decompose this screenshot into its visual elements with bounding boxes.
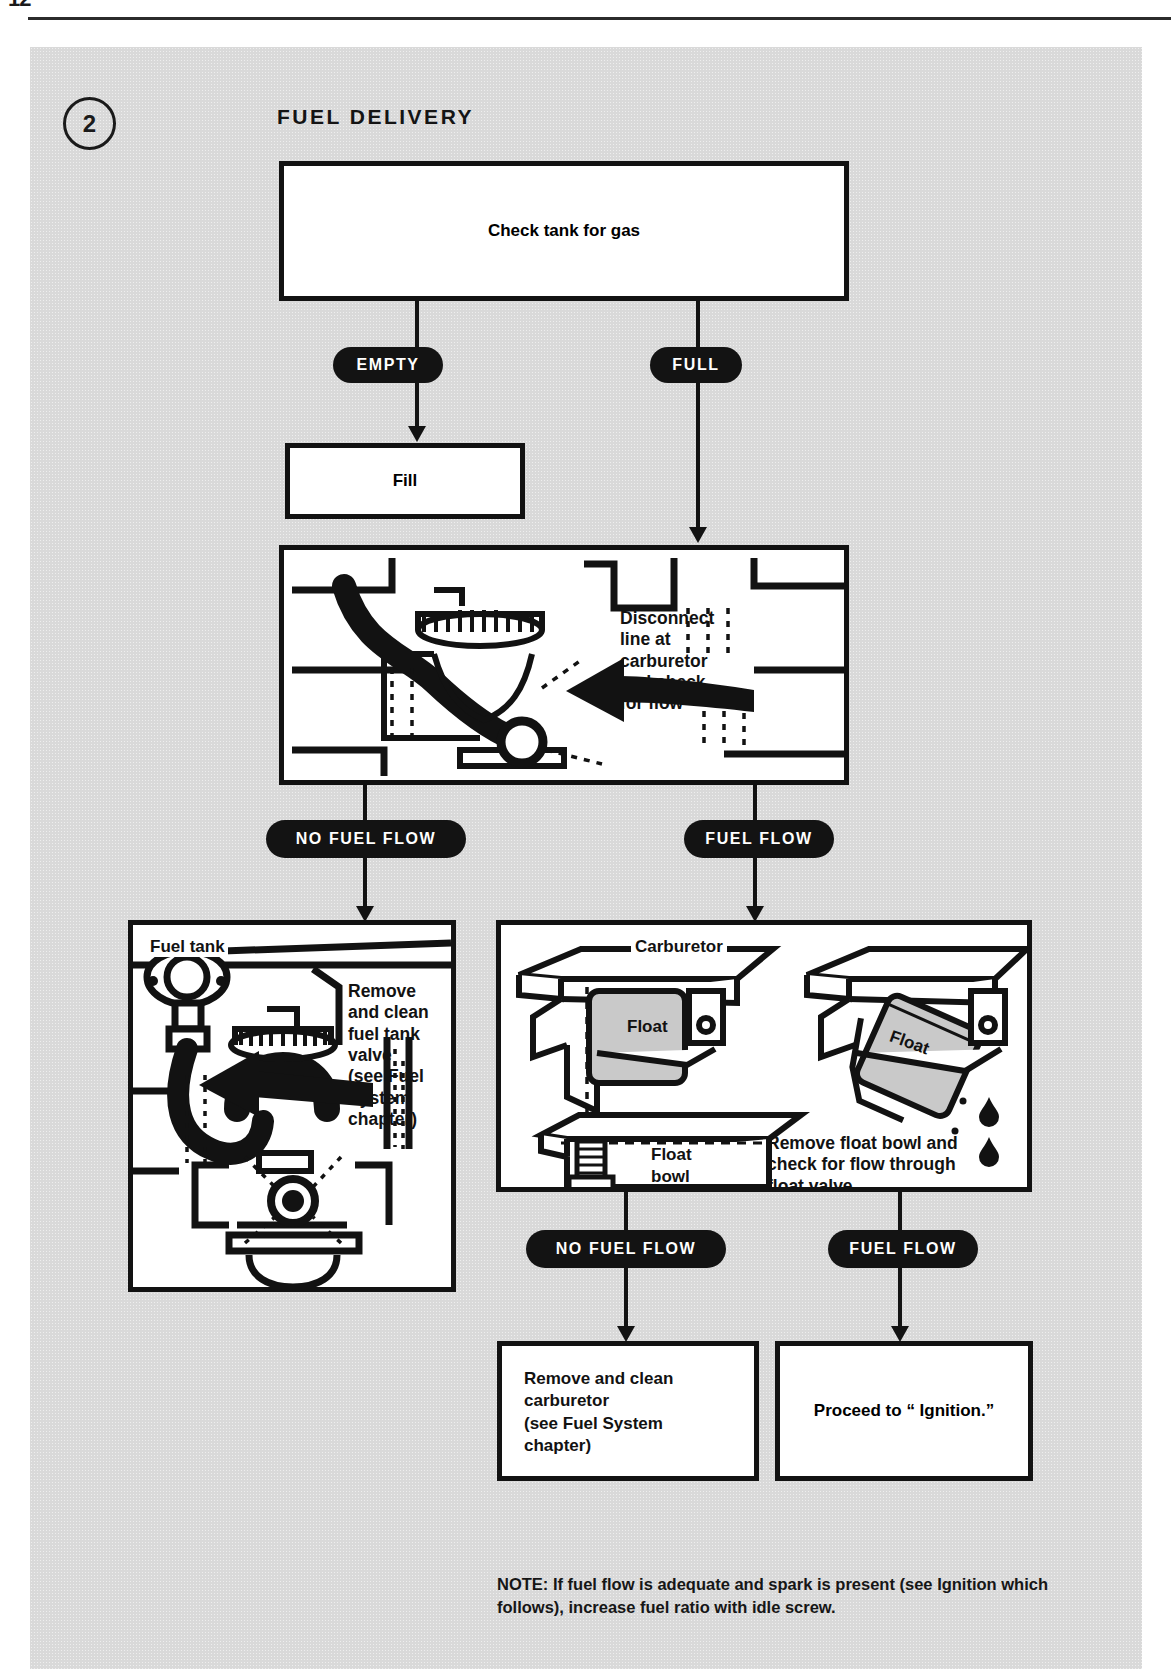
clean-carb-l2: carburetor bbox=[524, 1390, 673, 1412]
edge-label-fuel-flow-1: FUEL FLOW bbox=[684, 820, 834, 858]
callout-disconnect-l2: line at bbox=[620, 629, 714, 650]
edge-label-empty: EMPTY bbox=[333, 347, 443, 383]
edge-label-no-fuel-flow-1-text: NO FUEL FLOW bbox=[296, 830, 437, 848]
edge-label-no-fuel-flow-2-text: NO FUEL FLOW bbox=[556, 1240, 697, 1258]
connector-full-to-disconnect bbox=[696, 383, 700, 529]
connector-float-to-fuelflow2 bbox=[898, 1192, 902, 1230]
callout-float-l3: float valve bbox=[767, 1176, 958, 1197]
diagram-label-float-bowl-line2: bowl bbox=[651, 1167, 690, 1187]
callout-tank-l5-bold: Fuel bbox=[388, 1066, 424, 1086]
callout-float-bowl: Remove float bowl and check for flow thr… bbox=[767, 1133, 958, 1197]
callout-fuel-tank-valve: Remove and clean fuel tank valve (see Fu… bbox=[348, 981, 429, 1130]
clean-carb-l3-bold: Fuel System bbox=[563, 1414, 663, 1433]
carburetor-section-illustration bbox=[284, 550, 844, 780]
arrow-to-carburetor-box bbox=[746, 906, 764, 922]
edge-label-empty-text: EMPTY bbox=[356, 356, 419, 374]
callout-tank-l5-pre: (see bbox=[348, 1066, 388, 1086]
arrow-to-fill bbox=[408, 426, 426, 442]
connector-nofuel2-to-cleancarb bbox=[624, 1268, 628, 1328]
node-check-tank-label: Check tank for gas bbox=[488, 221, 640, 241]
callout-tank-l5: (see Fuel bbox=[348, 1066, 429, 1087]
edge-label-fuel-flow-2-text: FUEL FLOW bbox=[849, 1240, 956, 1258]
callout-tank-l1: Remove bbox=[348, 981, 429, 1002]
arrow-to-fuel-tank bbox=[356, 906, 374, 922]
node-proceed-ignition: Proceed to “ Ignition.” bbox=[775, 1341, 1033, 1481]
node-fill-label: Fill bbox=[393, 471, 418, 491]
header-rule bbox=[28, 17, 1171, 20]
carburetor-section-svg bbox=[284, 550, 844, 780]
connector-check-to-empty bbox=[415, 301, 419, 347]
connector-float-to-nofuel2 bbox=[624, 1192, 628, 1230]
diagram-label-fuel-tank: Fuel tank bbox=[147, 937, 228, 957]
arrow-to-clean-carburetor bbox=[617, 1326, 635, 1342]
clean-carb-l3: (see Fuel System bbox=[524, 1413, 673, 1435]
note-pre: NOTE: If fuel flow is adequate and spark… bbox=[497, 1575, 937, 1593]
connector-empty-to-fill bbox=[415, 383, 419, 428]
edge-label-full-text: FULL bbox=[672, 356, 719, 374]
page-number: 12 bbox=[8, 0, 30, 12]
callout-tank-l7: chapter) bbox=[348, 1109, 429, 1130]
node-float-bowl: Carburetor Float Float Float bowl Remove… bbox=[496, 920, 1032, 1192]
callout-tank-l6: System bbox=[348, 1088, 429, 1109]
clean-carb-l4: chapter) bbox=[524, 1435, 673, 1457]
callout-disconnect-l3: carburetor bbox=[620, 651, 714, 672]
connector-disconnect-to-nofuel1 bbox=[363, 785, 367, 820]
clean-carb-l1: Remove and clean bbox=[524, 1368, 673, 1390]
node-fill: Fill bbox=[285, 443, 525, 519]
arrow-to-disconnect bbox=[689, 527, 707, 543]
callout-float-l2: check for flow through bbox=[767, 1154, 958, 1175]
step-number-badge: 2 bbox=[63, 97, 116, 150]
node-fuel-tank-valve: Fuel tank Remove and clean fuel tank val… bbox=[128, 920, 456, 1292]
edge-label-fuel-flow-1-text: FUEL FLOW bbox=[705, 830, 812, 848]
edge-label-no-fuel-flow-1: NO FUEL FLOW bbox=[266, 820, 466, 858]
connector-fuelflow2-to-proceed bbox=[898, 1268, 902, 1328]
connector-disconnect-to-fuelflow1 bbox=[753, 785, 757, 820]
callout-disconnect-l5: for flow bbox=[620, 693, 714, 714]
node-clean-carburetor: Remove and clean carburetor (see Fuel Sy… bbox=[497, 1341, 759, 1481]
node-clean-carburetor-label: Remove and clean carburetor (see Fuel Sy… bbox=[524, 1368, 673, 1458]
callout-disconnect-line: Disconnect line at carburetor and check … bbox=[620, 608, 714, 715]
diagram-label-carburetor: Carburetor bbox=[631, 937, 727, 957]
callout-disconnect-l1: Disconnect bbox=[620, 608, 714, 629]
edge-label-full: FULL bbox=[650, 347, 742, 383]
node-proceed-ignition-label: Proceed to “ Ignition.” bbox=[814, 1401, 994, 1421]
connector-nofuel1-to-tank bbox=[363, 858, 367, 908]
connector-check-to-full bbox=[696, 301, 700, 347]
edge-label-fuel-flow-2: FUEL FLOW bbox=[828, 1230, 978, 1268]
note-text: NOTE: If fuel flow is adequate and spark… bbox=[497, 1573, 1097, 1620]
callout-tank-l2: and clean bbox=[348, 1002, 429, 1023]
diagram-label-float-left: Float bbox=[627, 1017, 668, 1037]
connector-fuelflow1-to-carb bbox=[753, 858, 757, 908]
node-check-tank: Check tank for gas bbox=[279, 161, 849, 301]
clean-carb-l3-pre: (see bbox=[524, 1414, 563, 1433]
arrow-to-proceed bbox=[891, 1326, 909, 1342]
edge-label-no-fuel-flow-2: NO FUEL FLOW bbox=[526, 1230, 726, 1268]
diagram-label-float-bowl-line1: Float bbox=[651, 1145, 692, 1165]
callout-tank-l3: fuel tank bbox=[348, 1024, 429, 1045]
note-bold: Ignition bbox=[937, 1575, 997, 1593]
page-title: FUEL DELIVERY bbox=[277, 105, 474, 129]
node-disconnect-line: Disconnect line at carburetor and check … bbox=[279, 545, 849, 785]
callout-float-l1: Remove float bowl and bbox=[767, 1133, 958, 1154]
page-header: 12 bbox=[0, 0, 1171, 40]
callout-disconnect-l4: and check bbox=[620, 672, 714, 693]
callout-tank-l4: valve bbox=[348, 1045, 429, 1066]
